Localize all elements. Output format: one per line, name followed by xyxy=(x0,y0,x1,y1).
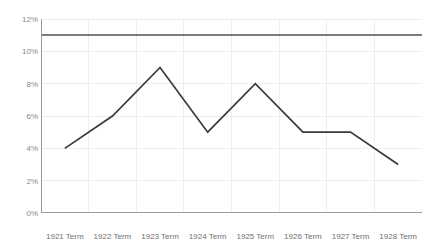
y-tick-label: 2% xyxy=(26,176,38,185)
x-axis: 1921 Term1922 Term1923 Term1924 Term1925… xyxy=(41,226,422,252)
x-tick-label: 1928 Term xyxy=(374,226,422,252)
y-tick-label: 12% xyxy=(22,15,38,24)
y-tick-label: 10% xyxy=(22,47,38,56)
y-tick-label: 4% xyxy=(26,144,38,153)
x-tick-label: 1927 Term xyxy=(327,226,375,252)
x-tick-label: 1923 Term xyxy=(136,226,184,252)
x-tick-label: 1925 Term xyxy=(232,226,280,252)
y-tick-label: 6% xyxy=(26,112,38,121)
plot-area xyxy=(41,19,422,213)
plot-svg xyxy=(41,19,422,213)
x-tick-label: 1926 Term xyxy=(279,226,327,252)
y-tick-label: 0% xyxy=(26,209,38,218)
y-axis: 0%2%4%6%8%10%12% xyxy=(0,0,38,252)
y-tick-label: 8% xyxy=(26,79,38,88)
x-tick-label: 1921 Term xyxy=(41,226,89,252)
line-chart: 0%2%4%6%8%10%12% 1921 Term1922 Term1923 … xyxy=(0,0,427,252)
x-tick-label: 1922 Term xyxy=(89,226,137,252)
x-tick-label: 1924 Term xyxy=(184,226,232,252)
